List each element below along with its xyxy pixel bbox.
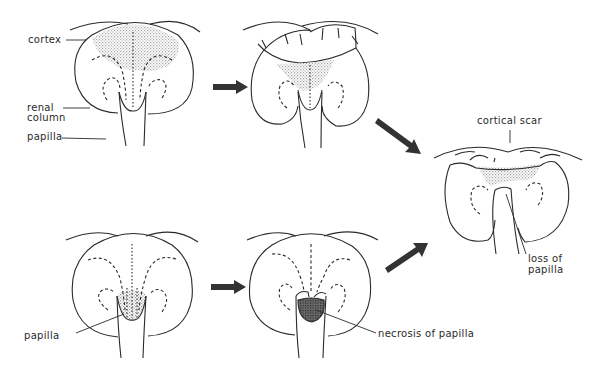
arrow-right-bottom <box>211 280 246 294</box>
panel-bottom-middle: necrosis of papilla <box>247 232 474 358</box>
leader-papilla-top <box>62 138 106 139</box>
label-column: column <box>27 112 66 123</box>
minor-pyramid-left <box>279 284 292 310</box>
lobe-top-right <box>540 162 555 167</box>
minor-pyramid-left <box>99 289 114 310</box>
scarred-surface <box>264 25 356 50</box>
papilla-tip <box>119 92 146 111</box>
scarred-surface <box>434 147 582 160</box>
panel-right: cortical scar loss of papilla <box>434 115 582 275</box>
minor-pyramid-right <box>150 289 167 312</box>
panel-top-middle <box>243 22 378 149</box>
lobe-outline <box>72 234 192 338</box>
adjacent-lobe-arc-right <box>302 22 378 35</box>
panel-top-left: cortex renal column papilla <box>27 21 200 146</box>
leader-papilla-bottom <box>76 314 124 333</box>
leader-loss-of-papilla <box>506 194 526 254</box>
minor-pyramid-right <box>148 80 166 98</box>
label-loss-of: loss of <box>528 253 562 264</box>
adjacent-lobe-arc-left <box>243 22 310 30</box>
minor-pyramid-left <box>279 81 294 108</box>
fornix-edges <box>296 292 326 298</box>
label-necrosis-of-papilla: necrosis of papilla <box>378 328 474 339</box>
minor-pyramid-right <box>328 82 343 108</box>
adjacent-lobe-arc-right <box>324 232 378 240</box>
lobe-top-left <box>450 163 476 168</box>
adjacent-lobe-arc-left <box>66 233 118 240</box>
cortex-stipple <box>92 24 179 71</box>
adjacent-lobe-arc-left <box>247 233 296 240</box>
minor-pyramid-right <box>526 183 543 205</box>
calyx-top <box>495 187 511 190</box>
lobe-outline-right <box>322 48 369 126</box>
necrotic-papilla <box>298 298 324 322</box>
lobe-outline-left <box>251 50 298 124</box>
medullary-ray-left <box>272 254 304 292</box>
label-cortex: cortex <box>28 34 61 45</box>
panel-bottom-left: papilla <box>24 232 198 358</box>
label-cortical-scar: cortical scar <box>477 115 542 126</box>
minor-pyramid-left <box>471 186 488 214</box>
renal-scarring-diagram: cortex renal column papilla cortical sca… <box>0 0 610 372</box>
label-papilla-bottom: papilla <box>24 330 59 341</box>
cortex-lower-edge <box>264 48 356 63</box>
calyx-wall-left <box>119 92 126 146</box>
arrow-down-right <box>375 118 421 154</box>
scar-ticks <box>258 28 358 50</box>
minor-pyramid-right <box>330 284 345 312</box>
contracted-pyramid-stipple <box>276 60 334 91</box>
medullary-ray-right <box>317 259 350 292</box>
label-papilla-top: papilla <box>27 131 62 142</box>
arrow-up-right <box>385 243 428 273</box>
label-papilla-loss: papilla <box>528 264 563 275</box>
calyx-wall-left <box>298 92 305 148</box>
arrow-right-top <box>213 80 248 94</box>
calyx-wall-right <box>321 92 322 148</box>
minor-pyramid-left <box>103 78 120 100</box>
